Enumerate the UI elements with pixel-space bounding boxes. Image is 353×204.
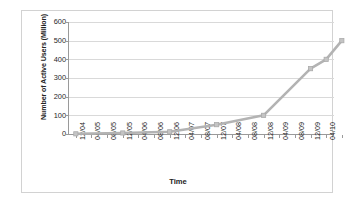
y-axis-tick-label: 100 — [26, 112, 66, 119]
y-axis-tick-labels: 0100200300400500600 — [22, 22, 66, 134]
data-point-marker — [261, 113, 265, 117]
x-axis-title: Time — [22, 177, 334, 186]
y-axis-tick-label: 200 — [26, 93, 66, 100]
data-point-marker — [340, 39, 344, 43]
y-axis-tick-mark — [65, 78, 68, 79]
x-axis-tick-mark — [154, 135, 155, 138]
y-axis-tick-mark — [65, 97, 68, 98]
y-axis-tick-mark — [65, 115, 68, 116]
x-axis-tick-mark — [248, 135, 249, 138]
data-point-marker — [324, 57, 328, 61]
x-axis-tick-mark — [311, 135, 312, 138]
x-axis-tick-mark — [295, 135, 296, 138]
data-point-marker — [74, 132, 78, 136]
y-axis-tick-label: 600 — [26, 18, 66, 25]
y-axis-tick-label: 400 — [26, 56, 66, 63]
y-axis-tick-label: 500 — [26, 37, 66, 44]
x-axis-tick-mark — [217, 135, 218, 138]
data-point-marker — [215, 123, 219, 127]
y-axis-tick-mark — [65, 59, 68, 60]
chart-figure: Number of Active Users (Million) 0100200… — [0, 0, 353, 204]
data-point-marker — [121, 131, 125, 135]
y-axis-tick-label: 0 — [26, 130, 66, 137]
x-axis-tick-mark — [201, 135, 202, 138]
data-point-marker — [168, 130, 172, 134]
x-axis-tick-mark — [170, 135, 171, 138]
y-axis-tick-label: 300 — [26, 74, 66, 81]
x-axis-tick-mark — [342, 135, 343, 138]
x-axis-tick-mark — [264, 135, 265, 138]
chart-plot-frame: Number of Active Users (Million) 0100200… — [21, 10, 333, 193]
y-axis-tick-mark — [65, 22, 68, 23]
x-axis-tick-mark — [107, 135, 108, 138]
data-series-line — [68, 22, 334, 135]
y-axis-tick-mark — [65, 134, 68, 135]
data-point-marker — [308, 67, 312, 71]
series-line — [76, 41, 342, 134]
y-axis-tick-mark — [65, 41, 68, 42]
